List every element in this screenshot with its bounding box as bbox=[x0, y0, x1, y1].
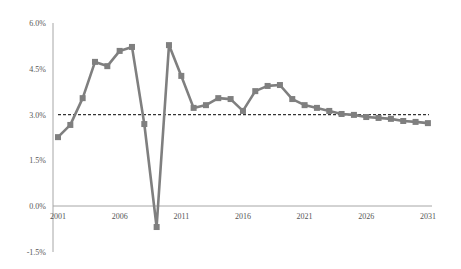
line-chart: 6.0%4.5%3.0%1.5%0.0%-1.5% 20012006201120… bbox=[0, 0, 461, 269]
data-point-marker bbox=[55, 134, 61, 140]
data-point-marker bbox=[388, 116, 394, 122]
data-point-marker bbox=[104, 63, 110, 69]
data-point-marker bbox=[228, 96, 234, 102]
data-point-marker bbox=[80, 95, 86, 101]
data-point-marker bbox=[302, 102, 308, 108]
series-growth-rate bbox=[55, 42, 431, 230]
y-axis-tick-labels: 6.0%4.5%3.0%1.5%0.0%-1.5% bbox=[27, 19, 47, 257]
x-tick-label: 2016 bbox=[235, 212, 251, 221]
data-point-marker bbox=[215, 95, 221, 101]
data-point-marker bbox=[129, 44, 135, 50]
x-tick-label: 2011 bbox=[173, 212, 189, 221]
y-tick-label: 1.5% bbox=[29, 156, 46, 165]
data-point-marker bbox=[314, 105, 320, 111]
data-point-marker bbox=[67, 122, 73, 128]
x-tick-label: 2001 bbox=[50, 212, 66, 221]
data-point-marker bbox=[154, 224, 160, 230]
x-tick-label: 2021 bbox=[297, 212, 313, 221]
data-point-marker bbox=[351, 112, 357, 118]
data-point-marker bbox=[92, 59, 98, 65]
data-point-marker bbox=[363, 114, 369, 120]
data-point-marker bbox=[240, 108, 246, 114]
data-point-marker bbox=[117, 48, 123, 54]
data-point-marker bbox=[252, 88, 258, 94]
y-tick-label: -1.5% bbox=[27, 248, 47, 257]
x-axis-tick-labels: 2001200620112016202120262031 bbox=[50, 212, 436, 221]
data-point-marker bbox=[289, 96, 295, 102]
data-point-marker bbox=[376, 115, 382, 121]
data-point-marker bbox=[413, 119, 419, 125]
x-tick-label: 2006 bbox=[112, 212, 128, 221]
data-point-marker bbox=[425, 120, 431, 126]
y-tick-label: 3.0% bbox=[29, 111, 46, 120]
x-tick-label: 2031 bbox=[420, 212, 436, 221]
data-point-marker bbox=[400, 118, 406, 124]
data-point-marker bbox=[166, 42, 172, 48]
y-tick-label: 0.0% bbox=[29, 202, 46, 211]
data-point-marker bbox=[277, 82, 283, 88]
series-line bbox=[58, 45, 428, 227]
data-point-marker bbox=[191, 105, 197, 111]
data-point-marker bbox=[265, 83, 271, 89]
data-point-marker bbox=[326, 108, 332, 114]
data-point-marker bbox=[178, 73, 184, 79]
data-point-marker bbox=[141, 121, 147, 127]
y-tick-label: 6.0% bbox=[29, 19, 46, 28]
data-point-marker bbox=[339, 111, 345, 117]
x-tick-label: 2026 bbox=[358, 212, 374, 221]
data-point-marker bbox=[203, 102, 209, 108]
y-tick-label: 4.5% bbox=[29, 65, 46, 74]
